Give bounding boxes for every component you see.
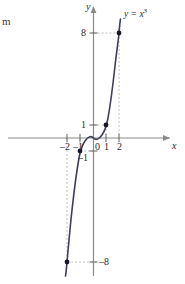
chart-canvas: m y x –2 –1 0 1 2 8 1 –1 –8 y = x3 xyxy=(0,0,185,284)
point-2-8 xyxy=(117,31,122,36)
xtick-label-1: 1 xyxy=(104,142,109,152)
curve-equation-exponent: 3 xyxy=(144,7,148,15)
corner-text-fragment: m xyxy=(2,16,11,27)
xtick-label-0: 0 xyxy=(95,142,100,152)
ytick-label-8: 8 xyxy=(81,28,86,38)
function-plot xyxy=(0,0,185,284)
ytick-label-neg1: –1 xyxy=(78,153,88,163)
ytick-label-neg8: –8 xyxy=(99,257,109,267)
y-axis-arrow xyxy=(91,6,97,13)
x-axis-label: x xyxy=(172,141,176,151)
y-axis-label: y xyxy=(86,2,90,12)
point-1-1 xyxy=(104,123,109,128)
axis-lines xyxy=(8,8,170,276)
axis-arrows xyxy=(91,6,170,141)
point-neg2-neg8 xyxy=(65,260,70,265)
ytick-label-1: 1 xyxy=(81,120,86,130)
curve-equation-label: y = x3 xyxy=(124,8,147,20)
x-axis-arrow xyxy=(163,135,170,141)
xtick-label-2: 2 xyxy=(117,142,122,152)
curve-equation-base: y = x xyxy=(124,9,144,19)
xtick-label-neg1: –1 xyxy=(73,142,83,152)
xtick-label-neg2: –2 xyxy=(60,142,70,152)
